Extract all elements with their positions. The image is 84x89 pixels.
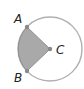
label-b: B [14,71,22,85]
point-b [25,69,29,73]
point-a [25,25,29,29]
point-c-center [48,47,52,51]
circle-sector-diagram: A B C [0,0,84,89]
label-c: C [56,43,65,57]
label-a: A [13,12,22,26]
